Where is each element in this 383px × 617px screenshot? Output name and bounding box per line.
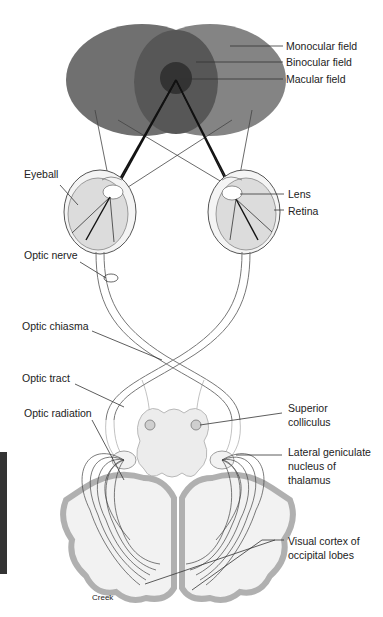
- label-macular-field: Macular field: [286, 73, 346, 85]
- optic-nerves: [96, 252, 250, 420]
- label-superior-colliculus-1: Superior: [288, 402, 328, 414]
- label-optic-radiation: Optic radiation: [24, 407, 92, 419]
- label-visual-cortex-2: occipital lobes: [288, 549, 354, 561]
- label-optic-chiasma: Optic chiasma: [22, 320, 89, 332]
- label-lgn-2: nucleus of: [288, 460, 336, 472]
- credit-text: Creek: [92, 592, 113, 604]
- left-superior-colliculus: [145, 420, 155, 430]
- label-lgn-1: Lateral geniculate: [288, 446, 371, 458]
- label-visual-cortex-1: Visual cortex of: [288, 535, 360, 547]
- label-lens: Lens: [288, 188, 311, 200]
- label-optic-tract: Optic tract: [22, 372, 70, 384]
- label-retina: Retina: [288, 205, 318, 217]
- right-superior-colliculus: [191, 420, 201, 430]
- right-eyeball: [208, 170, 280, 254]
- macular-field: [160, 62, 192, 94]
- label-lgn-3: thalamus: [288, 474, 331, 486]
- midbrain: [112, 408, 234, 477]
- label-eyeball: Eyeball: [24, 168, 58, 180]
- label-optic-nerve: Optic nerve: [24, 249, 78, 261]
- visual-pathway-diagram: [0, 0, 383, 617]
- left-eyeball: [64, 170, 136, 254]
- label-monocular-field: Monocular field: [286, 40, 357, 52]
- label-superior-colliculus-2: colliculus: [288, 416, 331, 428]
- label-binocular-field: Binocular field: [286, 56, 352, 68]
